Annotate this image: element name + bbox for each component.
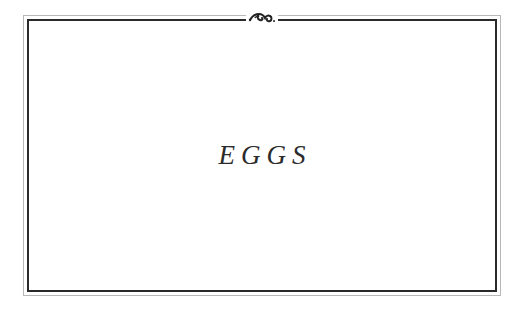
card-title: EGGS	[0, 139, 524, 171]
flourish-icon	[246, 8, 278, 26]
